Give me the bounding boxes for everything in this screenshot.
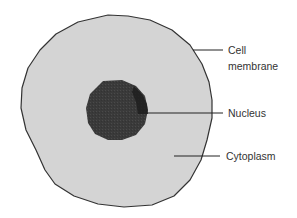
label-cell-membrane-line1: Cell: [228, 44, 246, 56]
label-nucleus: Nucleus: [228, 107, 266, 119]
label-cell-membrane-line2: membrane: [228, 60, 278, 72]
label-cytoplasm: Cytoplasm: [226, 150, 276, 162]
nucleus: [86, 80, 148, 140]
cell-diagram: Cell membrane Nucleus Cytoplasm: [0, 0, 297, 218]
